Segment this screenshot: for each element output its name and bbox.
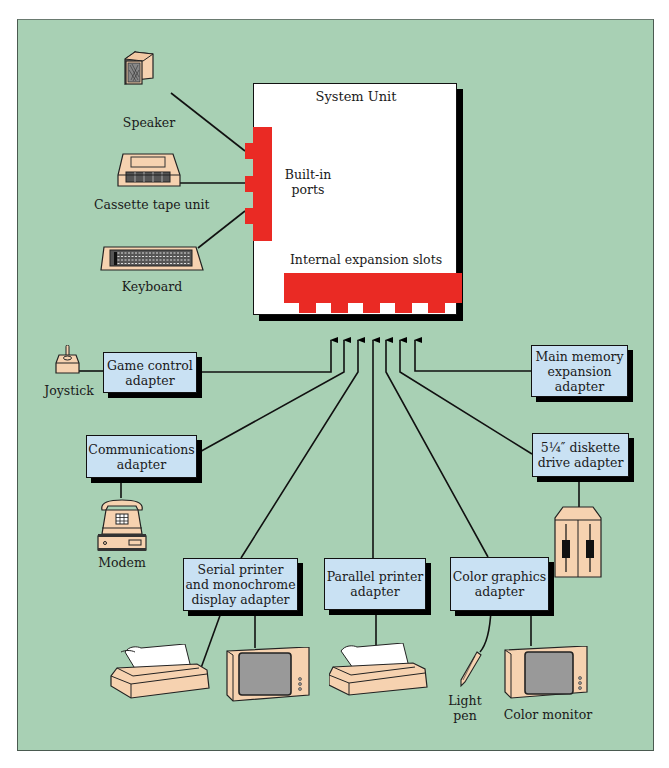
- expansion-slots-label: Internal expansion slots: [254, 252, 478, 267]
- expansion-slot: [428, 302, 445, 313]
- parallel-printer-icon: [329, 643, 435, 699]
- builtin-ports-bar: [253, 127, 272, 241]
- builtin-port: [245, 208, 254, 224]
- expansion-slot: [331, 302, 348, 313]
- memory-adapter-label: Main memory expansion adapter: [536, 349, 624, 394]
- builtin-port: [245, 143, 254, 159]
- serial-adapter-label: Serial printer and monochrome display ad…: [185, 562, 295, 607]
- speaker-label: Speaker: [118, 115, 180, 130]
- communications-adapter-label: Communications adapter: [88, 442, 194, 472]
- joystick-label: Joystick: [42, 383, 96, 398]
- diskette-adapter-label: 5¼″ diskette drive adapter: [538, 440, 624, 470]
- modem-label: Modem: [96, 555, 148, 570]
- color-graphics-adapter: Color graphics adapter: [450, 557, 549, 611]
- keyboard-icon: [100, 244, 204, 272]
- parallel-printer-adapter: Parallel printer adapter: [324, 558, 426, 610]
- keyboard-label: Keyboard: [120, 279, 184, 294]
- parallel-adapter-label: Parallel printer adapter: [327, 569, 424, 599]
- game-control-adapter: Game control adapter: [103, 352, 197, 393]
- modem-telephone-icon: [96, 498, 148, 552]
- serial-printer-monochrome-adapter: Serial printer and monochrome display ad…: [183, 558, 298, 611]
- cassette-tape-icon: [117, 153, 181, 187]
- serial-printer-icon: [107, 644, 223, 702]
- light-pen-label: Light pen: [445, 693, 485, 723]
- speaker-icon: [123, 52, 173, 84]
- color-graphics-adapter-label: Color graphics adapter: [453, 569, 546, 599]
- main-memory-expansion-adapter: Main memory expansion adapter: [531, 345, 628, 397]
- diskette-drive-adapter: 5¼″ diskette drive adapter: [532, 433, 629, 477]
- light-pen-icon: [459, 650, 483, 688]
- expansion-slot: [363, 302, 380, 313]
- builtin-ports-label: Built-in ports: [278, 167, 338, 197]
- game-control-adapter-label: Game control adapter: [107, 358, 193, 388]
- communications-adapter: Communications adapter: [86, 435, 197, 478]
- joystick-icon: [55, 345, 81, 375]
- builtin-port: [245, 176, 254, 192]
- expansion-slot: [299, 302, 316, 313]
- monochrome-monitor-icon: [225, 647, 311, 705]
- expansion-slots-bar: [284, 273, 462, 303]
- diskette-drive-icon: [553, 506, 603, 578]
- cassette-tape-label: Cassette tape unit: [94, 197, 204, 212]
- system-unit-title: System Unit: [254, 89, 458, 104]
- expansion-slot: [395, 302, 412, 313]
- color-monitor-icon: [503, 646, 589, 702]
- color-monitor-label: Color monitor: [503, 707, 593, 722]
